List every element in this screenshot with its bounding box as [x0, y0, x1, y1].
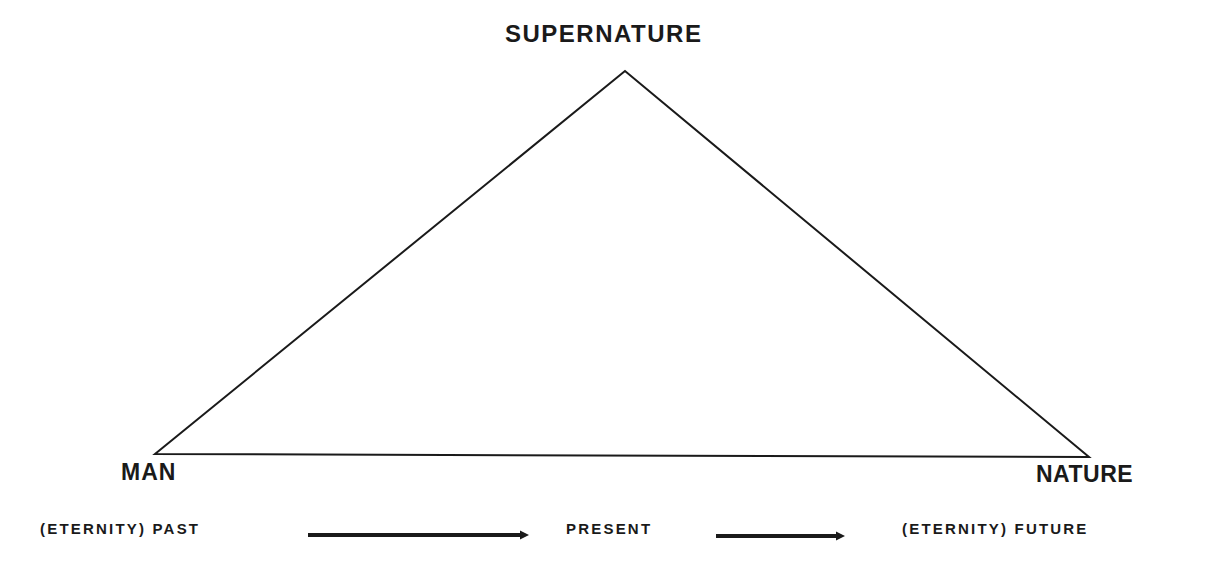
vertex-label-supernature: SUPERNATURE — [505, 20, 702, 48]
triangle-diagram: SUPERNATURE MAN NATURE (ETERNITY) PAST P… — [0, 0, 1227, 569]
timeline-label-future: (ETERNITY) FUTURE — [902, 520, 1089, 537]
timeline-label-past: (ETERNITY) PAST — [40, 520, 200, 537]
arrow-past-to-present — [308, 531, 529, 540]
arrow-present-to-future — [716, 532, 845, 541]
triangle-shape — [155, 71, 1089, 457]
timeline-label-present: PRESENT — [566, 520, 652, 537]
vertex-label-nature: NATURE — [1036, 461, 1133, 488]
vertex-label-man: MAN — [121, 459, 176, 486]
